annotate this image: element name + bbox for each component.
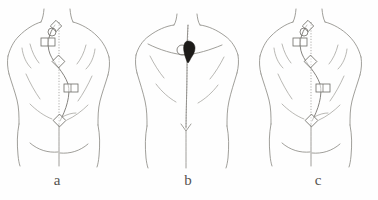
panel-c-illustration — [252, 0, 378, 170]
marker-diamond-mid — [52, 55, 65, 68]
panel-label-c: c — [298, 172, 338, 189]
panel-b-illustration — [126, 0, 252, 170]
panel-label-b: b — [168, 172, 208, 189]
figure-root: a b c — [0, 0, 378, 200]
marker-diamond-mid — [304, 55, 317, 68]
body-outline-c — [259, 9, 361, 167]
spine-markers-c — [293, 20, 330, 127]
panel-label-a: a — [37, 172, 77, 189]
marker-blob-device — [184, 41, 195, 63]
spine-markers-a — [41, 20, 78, 127]
body-outline-a — [7, 9, 109, 167]
panel-a-illustration — [0, 0, 126, 170]
